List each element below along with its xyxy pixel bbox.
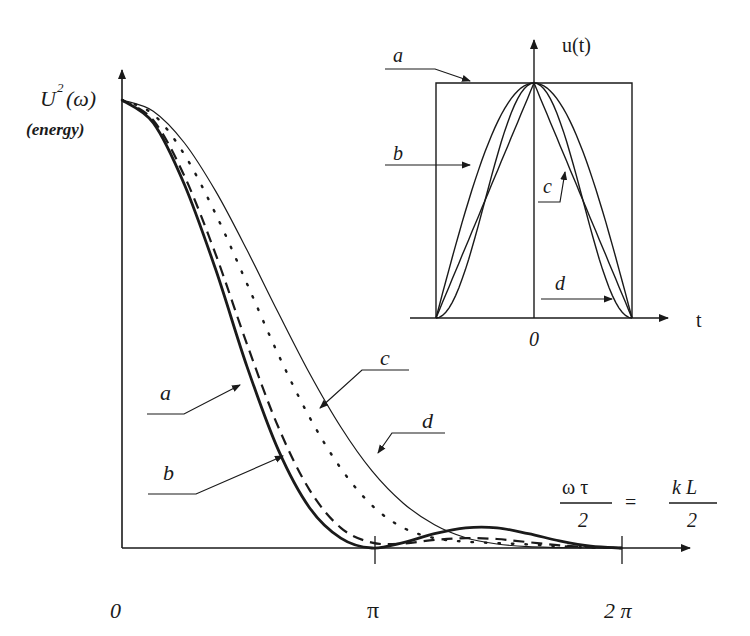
main-axes — [122, 70, 690, 564]
x-expr-rhs-denominator: 2 — [687, 509, 697, 531]
x-expr-lhs-numerator: ω τ — [562, 476, 588, 498]
y-axis-label: U — [40, 86, 58, 111]
spectrum-curve-c — [122, 100, 622, 548]
x-origin-label: 0 — [110, 598, 121, 623]
x-expr-lhs-denominator: 2 — [578, 509, 588, 531]
leader-d — [378, 433, 445, 453]
curve-label-d: d — [422, 408, 434, 433]
x-expr-rhs-numerator: k L — [672, 476, 697, 498]
inset-origin-label: 0 — [529, 328, 539, 350]
inset-plot: u(t) t 0 a b c d — [385, 34, 702, 350]
inset-curve-label-a: a — [393, 44, 403, 66]
inset-y-label: u(t) — [562, 34, 591, 57]
inset-curve-label-d: d — [555, 272, 566, 294]
main-curve-labels: a b c d — [147, 345, 445, 494]
leader-c — [320, 370, 409, 408]
curve-label-b: b — [163, 460, 174, 485]
curve-label-c: c — [380, 345, 390, 370]
x-axis-expression: ω τ 2 = k L 2 — [560, 476, 717, 531]
energy-spectrum-diagram: U 2 (ω) (energy) 0 π 2 π ω τ 2 = k L 2 a… — [0, 0, 750, 636]
inset-x-label: t — [696, 309, 702, 331]
spectrum-curve-d — [122, 100, 622, 548]
inset-curve-label-b: b — [393, 142, 403, 164]
x-tick-label-pi: π — [367, 597, 379, 623]
inset-leader-a — [385, 69, 470, 81]
y-axis-label-superscript: 2 — [57, 80, 64, 95]
spectrum-curves — [122, 100, 622, 548]
x-expr-equals: = — [625, 491, 636, 513]
y-axis-sublabel: (energy) — [26, 120, 85, 139]
spectrum-curve-b — [122, 100, 622, 548]
curve-label-a: a — [160, 380, 171, 405]
spectrum-curve-a — [122, 100, 622, 548]
y-axis-label-argument: (ω) — [66, 86, 96, 111]
inset-curve-label-c: c — [543, 175, 552, 197]
x-tick-label-2pi: 2 π — [604, 598, 633, 623]
